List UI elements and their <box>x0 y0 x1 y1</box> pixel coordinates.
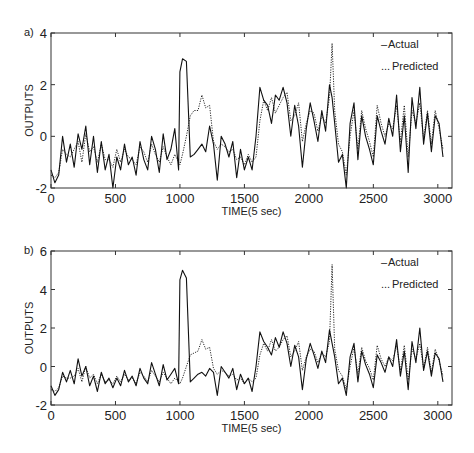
y-tick-label: 2 <box>40 78 47 93</box>
panel-label: b) <box>24 244 34 256</box>
x-tick-label: 1000 <box>165 408 194 423</box>
legend-marker-predicted: ... <box>381 278 390 290</box>
y-tick-label: 4 <box>40 26 47 41</box>
legend: –Actual...Predicted <box>381 38 438 72</box>
x-tick-label: 500 <box>105 191 127 206</box>
panel-a: 050010001500200025003000-2024TIME(5 sec)… <box>23 26 452 217</box>
y-tick-label: 4 <box>40 283 47 298</box>
x-tick-label: 1000 <box>165 191 194 206</box>
panel-b: 050010001500200025003000-20246TIME(5 sec… <box>23 244 452 434</box>
x-tick-label: 1500 <box>230 408 259 423</box>
x-axis-label: TIME(5 sec) <box>222 422 282 434</box>
legend-marker-actual: – <box>381 38 388 50</box>
x-tick-label: 2000 <box>294 408 323 423</box>
plot-frame <box>51 33 452 188</box>
x-tick-label: 500 <box>105 408 127 423</box>
panel-label: a) <box>24 26 34 38</box>
y-tick-label: -2 <box>35 181 47 196</box>
x-tick-label: 2500 <box>359 191 388 206</box>
x-tick-label: 1500 <box>230 191 259 206</box>
legend-marker-predicted: ... <box>381 60 390 72</box>
x-tick-label: 2500 <box>359 408 388 423</box>
y-axis-label: OUTPUTS <box>23 84 35 137</box>
x-tick-label: 0 <box>47 191 54 206</box>
chart-figure: 050010001500200025003000-2024TIME(5 sec)… <box>0 0 474 453</box>
legend-entry-actual: Actual <box>388 256 419 268</box>
y-axis-label: OUTPUTS <box>23 302 35 355</box>
x-tick-label: 3000 <box>423 408 452 423</box>
x-tick-label: 3000 <box>423 191 452 206</box>
legend-entry-predicted: Predicted <box>392 278 438 290</box>
y-tick-label: 2 <box>40 321 47 336</box>
x-tick-label: 0 <box>47 408 54 423</box>
y-tick-label: 0 <box>40 129 47 144</box>
legend-marker-actual: – <box>381 256 388 268</box>
y-tick-label: -2 <box>35 398 47 413</box>
legend-entry-actual: Actual <box>388 38 419 50</box>
legend-entry-predicted: Predicted <box>392 60 438 72</box>
y-tick-label: 6 <box>40 244 47 259</box>
x-axis-label: TIME(5 sec) <box>222 205 282 217</box>
legend: –Actual...Predicted <box>381 256 438 290</box>
y-tick-label: 0 <box>40 360 47 375</box>
x-tick-label: 2000 <box>294 191 323 206</box>
series-line-actual <box>51 59 443 188</box>
